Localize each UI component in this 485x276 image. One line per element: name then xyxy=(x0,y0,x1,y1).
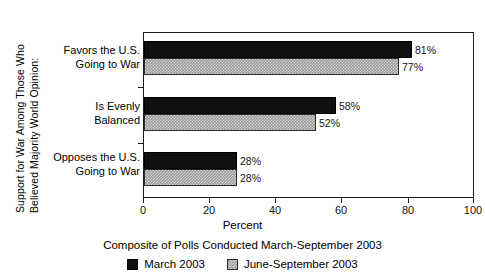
y-axis-title-line-2: Believed Majority World Opinion: xyxy=(29,58,40,213)
chart-caption: Composite of Polls Conducted March-Septe… xyxy=(0,239,485,251)
category-label-line: Going to War xyxy=(64,58,140,72)
x-tick-20 xyxy=(209,198,210,203)
category-label-favors: Favors the U.S. Going to War xyxy=(64,44,140,71)
x-tick-label-0: 0 xyxy=(123,204,163,217)
x-tick-label-40: 40 xyxy=(255,204,295,217)
x-tick-label-100: 100 xyxy=(453,204,485,217)
y-axis-title-line-1: Support for War Among Those Who xyxy=(15,44,26,213)
x-tick-label-60: 60 xyxy=(321,204,361,217)
legend-label-june-september-2003: June-September 2003 xyxy=(244,258,358,270)
bar-favors-june-september-2003[interactable] xyxy=(144,58,399,75)
chart-legend: March 2003 June-September 2003 xyxy=(0,258,485,270)
chart-page: { "chart_data": { "type": "bar", "orient… xyxy=(0,0,485,276)
x-tick-label-80: 80 xyxy=(388,204,428,217)
category-label-line: Favors the U.S. xyxy=(64,44,140,58)
x-tick-40 xyxy=(275,198,276,203)
x-tick-60 xyxy=(341,198,342,203)
y-axis-title: Support for War Among Those Who Believed… xyxy=(0,0,44,215)
bar-opposes-june-september-2003[interactable] xyxy=(144,169,237,186)
x-tick-0 xyxy=(143,198,144,203)
value-label-opposes-march-2003: 28% xyxy=(240,155,261,167)
category-label-line: Going to War xyxy=(53,165,140,179)
x-tick-80 xyxy=(408,198,409,203)
legend-swatch-june-september-2003 xyxy=(227,259,238,270)
y-tick xyxy=(138,143,143,144)
legend-label-march-2003: March 2003 xyxy=(144,258,205,270)
category-label-line: Opposes the U.S. xyxy=(53,151,140,165)
category-label-line: Balanced xyxy=(94,114,140,128)
legend-swatch-march-2003 xyxy=(127,259,138,270)
x-tick-label-20: 20 xyxy=(189,204,229,217)
y-tick xyxy=(138,87,143,88)
value-label-evenly-june-september-2003: 52% xyxy=(319,117,340,129)
bar-favors-march-2003[interactable] xyxy=(144,41,412,58)
legend-item-june-september-2003[interactable]: June-September 2003 xyxy=(227,258,358,270)
category-label-line: Is Evenly xyxy=(94,100,140,114)
value-label-opposes-june-september-2003: 28% xyxy=(240,172,261,184)
legend-item-march-2003[interactable]: March 2003 xyxy=(127,258,205,270)
value-label-favors-march-2003: 81% xyxy=(415,44,436,56)
x-axis-title: Percent xyxy=(0,219,485,231)
value-label-favors-june-september-2003: 77% xyxy=(402,61,423,73)
bar-opposes-march-2003[interactable] xyxy=(144,152,237,169)
category-label-evenly-balanced: Is Evenly Balanced xyxy=(94,100,140,127)
bar-evenly-balanced-march-2003[interactable] xyxy=(144,97,336,114)
bar-evenly-balanced-june-september-2003[interactable] xyxy=(144,114,316,131)
value-label-evenly-march-2003: 58% xyxy=(339,100,360,112)
category-label-opposes: Opposes the U.S. Going to War xyxy=(53,151,140,178)
plot-area xyxy=(143,32,474,198)
x-tick-100 xyxy=(473,198,474,203)
